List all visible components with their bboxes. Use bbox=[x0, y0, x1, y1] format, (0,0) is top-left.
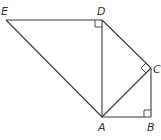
segment-EA bbox=[6, 20, 102, 117]
right-angle-marker-C bbox=[141, 63, 146, 73]
point-label-B: B bbox=[147, 121, 155, 134]
right-angle-marker-B bbox=[144, 110, 151, 117]
point-label-E: E bbox=[1, 5, 8, 18]
geometry-diagram: E D C A B bbox=[0, 0, 161, 140]
point-label-C: C bbox=[153, 63, 161, 76]
point-label-D: D bbox=[97, 5, 105, 18]
point-label-A: A bbox=[97, 121, 106, 134]
segment-DC bbox=[102, 20, 151, 68]
right-angle-marker-D bbox=[95, 20, 102, 27]
